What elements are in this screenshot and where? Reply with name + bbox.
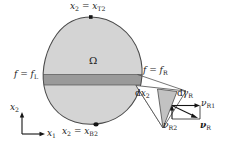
label-nu-r: νR <box>200 121 211 130</box>
label-nu-r1: νR1 <box>201 99 215 108</box>
figure-canvas: x2 = xT2 Ω f = fL f = fR x2 = xB2 dx2 dγ… <box>0 0 229 153</box>
label-dgamma-r: dγR <box>177 89 193 98</box>
label-left-flux: f = fL <box>14 70 38 79</box>
top-boundary-point <box>89 15 93 19</box>
label-right-flux: f = fR <box>143 66 168 75</box>
normal-vector-group <box>170 103 200 119</box>
label-top-boundary: x2 = xT2 <box>70 2 105 11</box>
label-bottom-boundary: x2 = xB2 <box>62 127 98 136</box>
label-axis-x2: x2 <box>10 103 19 112</box>
label-domain-omega: Ω <box>89 56 97 66</box>
coordinate-axes <box>20 112 45 136</box>
label-axis-x1: x1 <box>47 129 56 138</box>
bottom-boundary-point <box>93 122 98 126</box>
label-nu-r2: νR2 <box>163 121 177 130</box>
label-dx2: dx2 <box>135 89 150 98</box>
